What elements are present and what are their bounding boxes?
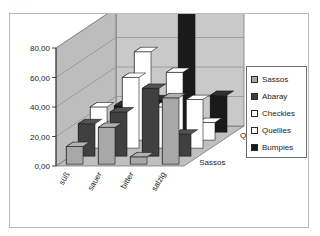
legend-swatch-abaray xyxy=(251,93,258,100)
y-tick-label: 20,00 xyxy=(30,133,51,142)
legend-item-abaray[interactable]: Abaray xyxy=(251,88,303,105)
legend-label-checkies: Checkies xyxy=(262,109,295,118)
bar-front[interactable] xyxy=(162,98,179,164)
y-tick-label: 0,00 xyxy=(34,162,50,171)
x-axis-category-label: süß xyxy=(57,170,72,186)
bar-front[interactable] xyxy=(98,127,115,164)
bar-front[interactable] xyxy=(142,88,159,156)
depth-axis-label-sassos: Sassos xyxy=(199,158,225,167)
legend-swatch-checkies xyxy=(251,110,258,117)
legend-swatch-bumpies xyxy=(251,144,258,151)
x-axis-category-label: sauer xyxy=(86,170,104,192)
legend-item-bumpies[interactable]: Bumpies xyxy=(251,139,303,156)
chart-frame: 0,0020,0040,0060,0080,00süßsauerbittersa… xyxy=(9,13,309,228)
legend-label-sassos: Sassos xyxy=(262,75,288,84)
chart-legend: Sassos Abaray Checkies Quellies Bumpies xyxy=(246,66,307,158)
y-tick-label: 60,00 xyxy=(30,74,51,83)
legend-label-abaray: Abaray xyxy=(262,92,287,101)
legend-label-bumpies: Bumpies xyxy=(262,143,293,152)
legend-swatch-quellies xyxy=(251,127,258,134)
x-axis-category-label: bitter xyxy=(119,170,136,190)
legend-item-checkies[interactable]: Checkies xyxy=(251,105,303,122)
legend-swatch-sassos xyxy=(251,76,258,83)
legend-item-quellies[interactable]: Quellies xyxy=(251,122,303,139)
bar-front[interactable] xyxy=(66,147,83,165)
y-tick-label: 40,00 xyxy=(30,103,51,112)
x-axis-category-label: salzig xyxy=(150,171,168,193)
legend-label-quellies: Quellies xyxy=(262,126,291,135)
bar-front[interactable] xyxy=(130,157,147,164)
legend-item-sassos[interactable]: Sassos xyxy=(251,71,303,88)
y-tick-label: 80,00 xyxy=(30,44,51,53)
cut-off-caption-text: · · · xyxy=(0,0,320,9)
